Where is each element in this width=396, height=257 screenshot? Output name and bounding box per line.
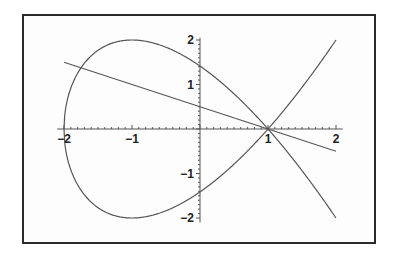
y-tick-label: 1 xyxy=(187,78,194,92)
chart-plot-area: −2−11221−1−2 xyxy=(0,0,396,257)
y-tick-label: 2 xyxy=(187,33,194,47)
y-tick-label: −2 xyxy=(180,211,194,225)
y-tick-label: −1 xyxy=(180,167,194,181)
x-tick-label: 2 xyxy=(333,132,340,146)
x-tick-label: 1 xyxy=(265,132,272,146)
x-tick-label: −1 xyxy=(125,132,139,146)
